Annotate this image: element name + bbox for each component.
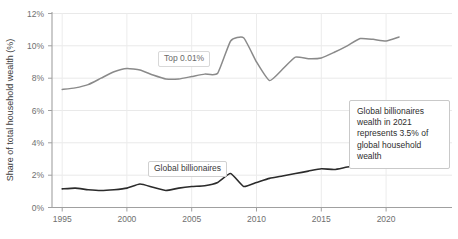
series-label-top-001: Top 0.01% <box>158 51 210 67</box>
series-line-top-001 <box>62 37 399 90</box>
x-tick-label-2015: 2015 <box>312 214 331 224</box>
annotation-callout-billionaires-2021: Global billionaires wealth in 2021 repre… <box>349 100 450 169</box>
y-tick-label-2: 2% <box>32 170 45 180</box>
series-label-global-billionaires: Global billionaires <box>148 161 227 177</box>
x-tick-marks <box>62 208 386 212</box>
y-tick-label-0: 0% <box>32 203 45 213</box>
y-tick-marks <box>48 14 52 208</box>
y-axis-title: Share of total household wealth (%) <box>5 39 15 182</box>
y-tick-label-10: 10% <box>27 41 44 51</box>
y-tick-label-8: 8% <box>32 73 45 83</box>
wealth-share-line-chart: 12% 10% 8% 6% 4% 2% 0% 1995 2000 2005 20… <box>0 0 458 239</box>
x-tick-label-2005: 2005 <box>182 214 201 224</box>
x-tick-label-2010: 2010 <box>247 214 266 224</box>
x-tick-label-2020: 2020 <box>377 214 396 224</box>
y-tick-label-4: 4% <box>32 138 45 148</box>
y-tick-label-6: 6% <box>32 106 45 116</box>
x-tick-label-2000: 2000 <box>117 214 136 224</box>
y-tick-label-12: 12% <box>27 9 44 19</box>
x-tick-label-1995: 1995 <box>53 214 72 224</box>
